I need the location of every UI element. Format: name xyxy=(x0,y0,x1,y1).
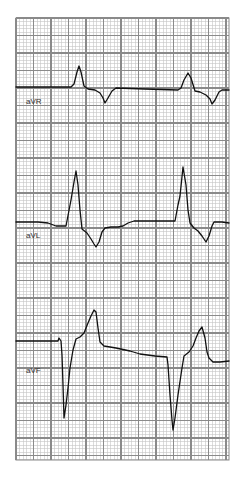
lead-label-avf: aVF xyxy=(26,366,41,375)
lead-label-avl: aVL xyxy=(26,231,41,240)
ecg-strip-figure: aVRaVLaVF xyxy=(0,0,241,479)
lead-label-avr: aVR xyxy=(26,97,42,106)
